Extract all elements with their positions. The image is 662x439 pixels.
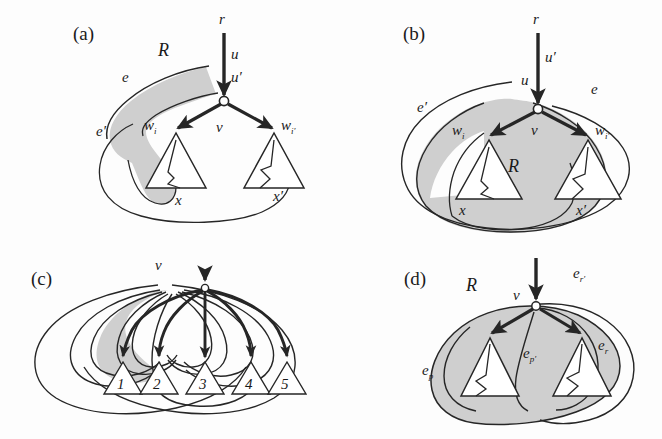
panel-d-caption: (d)	[404, 268, 426, 290]
panel-c-child-3-label: 3	[198, 376, 207, 392]
panel-a-label-e-prime: e′	[96, 123, 107, 139]
panel-a-label-u: u	[231, 46, 239, 62]
panel-c-caption: (c)	[31, 268, 52, 290]
panel-b-label-x-prime: x′	[575, 202, 587, 218]
panel-a-label-v: v	[216, 119, 223, 135]
figure-canvas: (a) R r u u′ v e e′ wi wi′ x x′	[0, 0, 662, 439]
panel-c-child-2-label: 2	[153, 376, 161, 392]
panel-b-label-e: e	[591, 81, 598, 97]
panel-b-caption: (b)	[403, 23, 425, 45]
panel-c-child-5-label: 5	[281, 376, 289, 392]
panel-b-label-r: r	[533, 11, 539, 27]
panel-a-region-label: R	[157, 40, 169, 60]
panel-d-node-v	[532, 302, 540, 310]
panel-d-label-v: v	[513, 287, 520, 303]
panel-a-caption: (a)	[73, 23, 94, 45]
figure-svg: (a) R r u u′ v e e′ wi wi′ x x′	[0, 0, 662, 439]
panel-b-label-x: x	[458, 202, 466, 218]
panel-c-label-v: v	[155, 257, 162, 273]
panel-a-label-u-prime: u′	[231, 69, 243, 85]
panel-d-region-label: R	[465, 275, 477, 295]
panel-b-region-label: R	[507, 156, 519, 176]
panel-c-child-4-label: 4	[245, 376, 253, 392]
panel-c-child-1-label: 1	[117, 376, 125, 392]
panel-a-label-x: x	[174, 192, 182, 208]
panel-a-label-x-prime: x′	[272, 188, 284, 204]
panel-a-label-r: r	[219, 11, 225, 27]
panel-b-label-e-prime: e′	[417, 99, 428, 115]
panel-b-label-u-prime: u′	[545, 49, 557, 65]
panel-a-label-e: e	[122, 69, 129, 85]
panel-b-label-v: v	[531, 122, 538, 138]
panel-b-label-u: u	[521, 72, 529, 88]
